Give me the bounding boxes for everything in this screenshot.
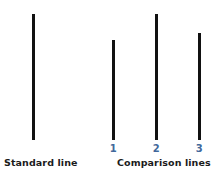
standard-line-caption: Standard line bbox=[4, 157, 78, 169]
comparison-lines-caption: Comparison lines bbox=[117, 157, 211, 169]
line-length-comparison-figure: Standard line 1 2 3 Comparison lines bbox=[0, 0, 215, 172]
comparison-line-2-label: 2 bbox=[146, 143, 166, 154]
comparison-line-1 bbox=[112, 40, 115, 140]
comparison-line-2 bbox=[155, 14, 158, 140]
comparison-line-1-label: 1 bbox=[103, 143, 123, 154]
comparison-line-3 bbox=[198, 33, 201, 140]
standard-line bbox=[32, 14, 35, 140]
comparison-line-3-label: 3 bbox=[189, 143, 209, 154]
